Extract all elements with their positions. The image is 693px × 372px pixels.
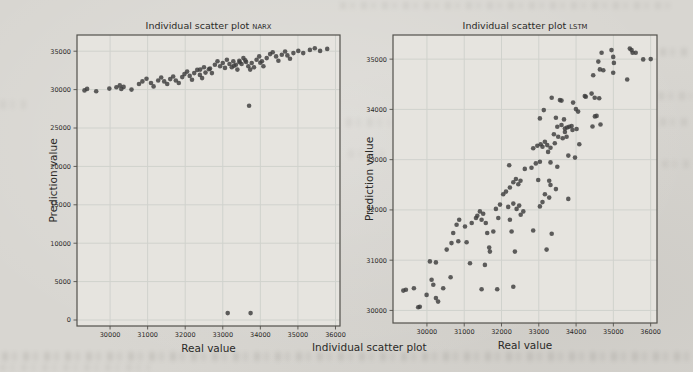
y-axis-label: Prediction value	[363, 137, 375, 221]
x-axis-label: Real value	[181, 342, 236, 354]
x-tick-label: 35000	[603, 328, 624, 336]
y-tick-label: 35000	[366, 56, 387, 64]
y-tick-label: 34000	[366, 106, 387, 114]
x-tick-label: 36000	[325, 331, 346, 339]
x-tick-label: 33000	[528, 328, 549, 336]
x-tick-label: 36000	[640, 328, 661, 336]
y-tick-label: 30000	[50, 86, 71, 94]
y-tick-label: 25000	[50, 124, 71, 132]
x-tick-label: 31000	[454, 328, 475, 336]
x-axis-label: Real value	[498, 339, 553, 351]
y-tick-label: 0	[67, 316, 71, 324]
plot-title: Individual scatter plotNARX	[146, 20, 272, 31]
x-tick-label: 33000	[212, 331, 233, 339]
y-tick-label: 31000	[366, 257, 387, 265]
x-tick-label: 32000	[175, 331, 196, 339]
x-tick-label: 30000	[100, 331, 121, 339]
lstm-scatter-plot: 3000031000320003300034000350003600030000…	[363, 20, 661, 351]
x-tick-label: 31000	[137, 331, 158, 339]
x-tick-label: 34000	[566, 328, 587, 336]
y-tick-label: 30000	[366, 307, 387, 315]
x-tick-label: 30000	[417, 328, 438, 336]
narx-scatter-plot: 3000031000320003300034000350003600005000…	[47, 20, 346, 354]
figure-caption-fragment: Individual scatter plot	[312, 341, 427, 353]
x-tick-label: 35000	[288, 331, 309, 339]
y-tick-label: 5000	[54, 278, 71, 286]
plot-title: Individual scatter plotLSTM	[463, 20, 588, 31]
scanned-page: 3000031000320003300034000350003600005000…	[0, 0, 693, 372]
x-tick-label: 34000	[250, 331, 271, 339]
x-tick-label: 32000	[491, 328, 512, 336]
y-axis-label: Prediction value	[47, 138, 59, 222]
scatter-figure: 3000031000320003300034000350003600005000…	[0, 0, 693, 372]
y-tick-label: 35000	[50, 48, 71, 56]
y-tick-label: 10000	[50, 240, 71, 248]
